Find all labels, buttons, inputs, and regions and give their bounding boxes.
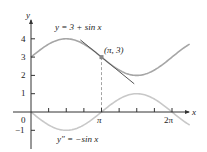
y-tick-label-2: 2 (21, 70, 26, 80)
point-label: (π, 3) (104, 45, 124, 55)
x-ticks (49, 108, 172, 112)
y-ticks (31, 39, 35, 131)
y-axis-label: y (25, 10, 30, 20)
chart: y x 0 π 2π 4 3 2 1 −1 y = 3 + sin x y″ =… (0, 0, 207, 152)
x-axis-label: x (191, 107, 196, 117)
y-tick-label-neg1: −1 (15, 125, 25, 135)
pi-label: π (97, 115, 102, 125)
two-pi-label: 2π (164, 115, 174, 125)
point-marker (100, 55, 104, 59)
curve-label-bottom: y″ = −sin x (56, 134, 98, 144)
y-tick-label-4: 4 (21, 34, 26, 44)
origin-label: 0 (21, 115, 26, 125)
y-tick-label-3: 3 (21, 52, 26, 62)
curve-label-top: y = 3 + sin x (54, 22, 101, 32)
y-tick-label-1: 1 (21, 88, 26, 98)
